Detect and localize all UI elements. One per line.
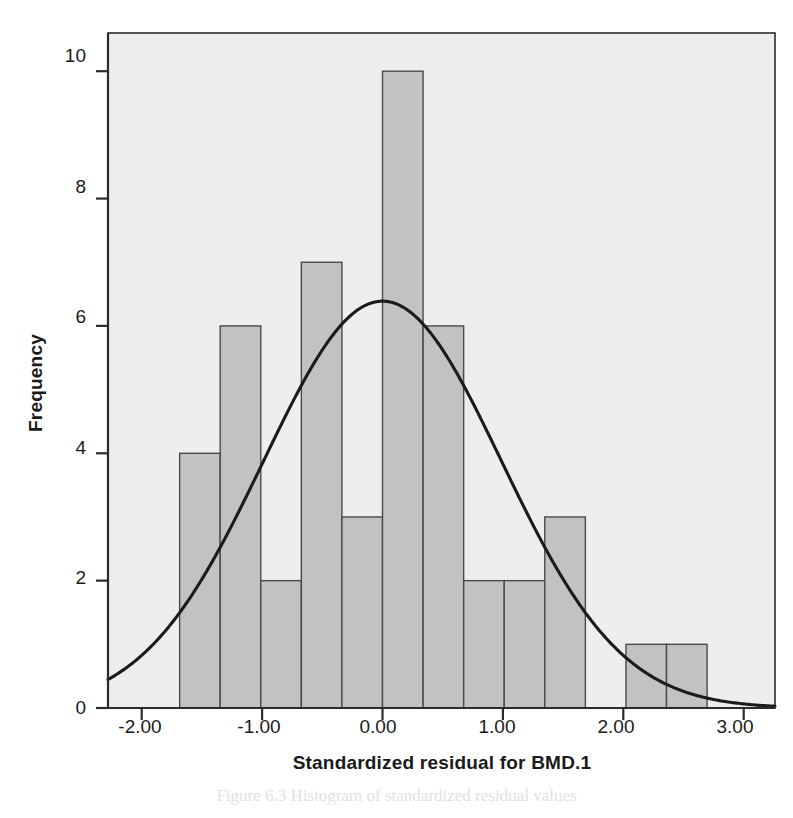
histogram-plot <box>0 0 793 818</box>
histogram-bar <box>423 326 464 708</box>
histogram-bar <box>464 581 505 708</box>
histogram-bar <box>342 517 383 708</box>
histogram-bar <box>261 581 302 708</box>
histogram-bar <box>220 326 261 708</box>
figure-caption: Figure 6.3 Histogram of standardized res… <box>0 786 793 812</box>
histogram-bar <box>667 644 708 708</box>
histogram-bar <box>626 644 667 708</box>
histogram-bar <box>504 581 545 708</box>
histogram-bar <box>545 517 586 708</box>
histogram-bar <box>383 71 424 708</box>
figure-container: Frequency 0 2 4 6 8 10 -2.00 -1.00 0.00 … <box>0 0 793 818</box>
